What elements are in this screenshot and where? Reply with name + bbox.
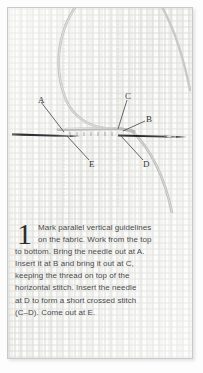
stitch-ticks [70, 132, 112, 136]
needle-right-point [176, 136, 187, 138]
needle-eye-hole [166, 136, 171, 138]
figure-frame: A C B E D 1 Mark parallel vertical guide… [7, 7, 193, 359]
thread-loop-upper-right [158, 8, 190, 90]
point-label-C: C [125, 92, 131, 101]
point-label-B: B [146, 115, 152, 124]
point-label-A: A [38, 96, 45, 105]
caption-line-3: to bottom. Bring the needle out at A. [15, 247, 145, 256]
thread-loop-upper-highlight [59, 8, 104, 128]
caption-text: Mark parallel vertical guidelines on the… [15, 222, 187, 319]
leader-B [123, 121, 145, 131]
leader-C [118, 100, 127, 129]
leader-A [41, 102, 64, 132]
needle-left [12, 133, 70, 137]
caption-line-7: at D to form a short crossed stitch [15, 296, 136, 305]
caption-line-1: Mark parallel vertical guidelines [38, 223, 151, 232]
stitch-diagram-svg [8, 8, 192, 213]
leader-E [67, 136, 89, 160]
point-label-E: E [89, 160, 95, 169]
illustration-page: A C B E D 1 Mark parallel vertical guide… [0, 0, 203, 373]
caption-line-8: (C–D). Come out at E. [15, 308, 95, 317]
thread-loop-right [131, 130, 172, 213]
thread-loop-right-highlight [131, 130, 172, 213]
needle-left-tip [70, 135, 80, 137]
caption-line-6: horizontal stitch. Insert the needle [15, 283, 136, 292]
caption-line-5: keeping the thread on top of the [15, 271, 130, 280]
caption-line-2: on the fabric. Work from the top [38, 235, 152, 244]
point-label-D: D [143, 160, 150, 169]
caption-block: 1 Mark parallel vertical guidelines on t… [8, 213, 192, 358]
stitch-diagram: A C B E D [8, 8, 192, 213]
caption-line-4: Insert it at B and bring it out at C, [15, 259, 134, 268]
